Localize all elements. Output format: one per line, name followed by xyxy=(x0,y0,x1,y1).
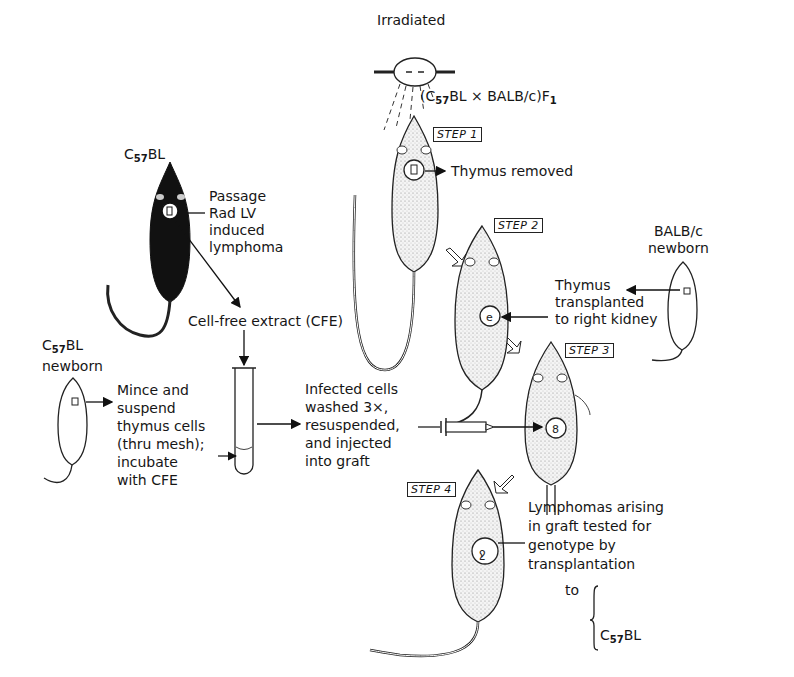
svg-text:8: 8 xyxy=(552,423,559,436)
c57bl-newborn-mouse-icon xyxy=(44,378,87,482)
svg-text:e: e xyxy=(486,311,493,324)
irradiated-label: Irradiated xyxy=(377,12,445,29)
balbc-newborn-mouse-icon xyxy=(652,262,697,361)
passage-note: PassageRad LVinducedlymphoma xyxy=(209,188,283,256)
to-label: to xyxy=(565,582,579,599)
cfe-label: Cell-free extract (CFE) xyxy=(188,313,343,330)
step1-mouse-icon xyxy=(354,116,438,370)
step-1-badge: STEP 1 xyxy=(433,127,482,142)
balbc-newborn-label: BALB/cnewborn xyxy=(648,223,709,257)
lymphoma-test-note: Lymphomas arisingin graft tested forgeno… xyxy=(528,498,664,574)
thymus-transplant-note: Thymustransplantedto right kidney xyxy=(555,277,658,328)
injection-note: Infected cellswashed 3×,resuspended,and … xyxy=(305,380,400,470)
step4-mouse-icon: ջ xyxy=(370,470,504,656)
step2-mouse-icon: e xyxy=(450,226,508,425)
diagram-canvas: e 8 ջ xyxy=(0,0,794,677)
svg-text:ջ: ջ xyxy=(479,546,486,560)
c57bl-newborn-label: C57BLnewborn xyxy=(42,337,103,375)
step-4-badge: STEP 4 xyxy=(407,482,456,497)
target-c57bl: C57BL xyxy=(600,624,737,651)
syringe-icon xyxy=(418,418,542,436)
test-tube-icon xyxy=(232,368,256,474)
mince-procedure-note: Mince andsuspendthymus cells(thru mesh);… xyxy=(117,381,205,489)
c57bl-adult-mouse-icon xyxy=(108,162,190,336)
step-2-badge: STEP 2 xyxy=(494,218,543,233)
step3-mouse-icon: 8 xyxy=(525,342,590,515)
test-targets-list: C57BL (C57BL × BALB/c)F1 BALB/c xyxy=(600,580,737,677)
step-3-badge: STEP 3 xyxy=(565,343,614,358)
brace-icon xyxy=(590,586,598,650)
thymus-removed-label: Thymus removed xyxy=(451,163,573,180)
step-arrow-3-4-icon xyxy=(494,475,514,493)
host-strain-label: (C57BL × BALB/c)F1 xyxy=(420,88,557,109)
c57bl-adult-label: C57BL xyxy=(124,146,165,167)
